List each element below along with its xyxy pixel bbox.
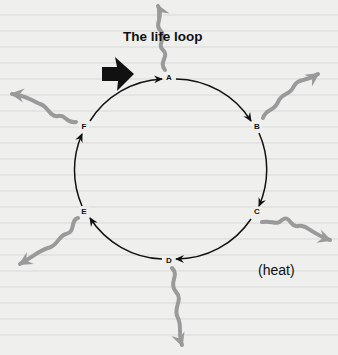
heat-arrow-c: [262, 218, 330, 240]
heat-arrows: [12, 6, 330, 345]
arc-a-to-b: [176, 79, 251, 121]
node-d: D: [164, 256, 174, 265]
node-f: F: [79, 122, 89, 131]
heat-label: (heat): [258, 262, 295, 278]
node-b: B: [252, 122, 262, 131]
arc-f-to-a: [90, 79, 162, 121]
node-a: A: [164, 73, 174, 82]
heat-arrow-b: [263, 74, 318, 118]
energy-input-arrow-icon: [102, 57, 134, 91]
diagram-title: The life loop: [123, 29, 203, 44]
cycle-arrows: [74, 79, 266, 259]
arc-c-to-d: [176, 219, 251, 259]
node-e: E: [79, 207, 89, 216]
arc-e-to-f: [74, 134, 82, 206]
heat-arrow-f: [12, 94, 76, 122]
heat-arrow-e: [20, 218, 78, 264]
life-loop-diagram: [0, 0, 338, 355]
arc-b-to-c: [259, 133, 267, 206]
node-c: C: [252, 207, 262, 216]
arc-d-to-e: [90, 218, 162, 259]
heat-arrow-d: [172, 268, 182, 345]
